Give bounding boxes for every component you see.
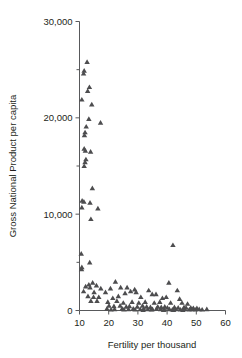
- data-point-marker: [88, 216, 93, 221]
- data-point-marker: [142, 299, 147, 304]
- data-point-marker: [86, 116, 91, 121]
- data-point-marker: [152, 300, 157, 305]
- data-point-marker: [84, 59, 89, 64]
- data-point-marker: [116, 293, 121, 298]
- data-point-marker: [124, 285, 129, 290]
- y-tick-label: 10,000: [43, 209, 72, 220]
- data-point-marker: [177, 296, 182, 301]
- tick-marks: [76, 22, 226, 315]
- data-point-marker: [89, 102, 94, 107]
- tick-labels: 102030405060010,00020,00030,000: [43, 16, 230, 328]
- data-point-marker: [175, 288, 180, 293]
- data-point-marker: [127, 304, 132, 309]
- data-point-marker: [114, 298, 119, 303]
- data-point-marker: [129, 299, 134, 304]
- data-points: [79, 59, 210, 312]
- data-point-marker: [91, 294, 96, 299]
- data-point-marker: [98, 120, 103, 125]
- data-point-marker: [98, 286, 103, 291]
- data-point-marker: [90, 280, 95, 285]
- x-tick-label: 20: [103, 317, 114, 328]
- data-point-marker: [138, 294, 143, 299]
- y-tick-label: 0: [67, 305, 72, 316]
- data-point-marker: [146, 288, 151, 293]
- data-point-marker: [81, 289, 86, 294]
- data-point-marker: [136, 300, 141, 305]
- y-tick-label: 30,000: [43, 16, 72, 27]
- y-axis-title: Gross National Product per capita: [7, 94, 18, 237]
- data-point-marker: [87, 260, 92, 265]
- data-point-marker: [83, 124, 88, 129]
- data-point-marker: [95, 206, 100, 211]
- data-point-marker: [110, 295, 115, 300]
- scatter-plot-figure: 102030405060010,00020,00030,000 Fertilit…: [0, 0, 242, 358]
- data-point-marker: [168, 300, 173, 305]
- data-point-marker: [96, 294, 101, 299]
- data-point-marker: [91, 290, 96, 295]
- x-tick-label: 40: [162, 317, 173, 328]
- data-point-marker: [88, 149, 93, 154]
- data-point-marker: [163, 294, 168, 299]
- data-point-marker: [121, 300, 126, 305]
- y-tick-label: 20,000: [43, 112, 72, 123]
- data-point-marker: [87, 200, 92, 205]
- axes: [80, 22, 226, 311]
- data-point-marker: [87, 84, 92, 89]
- data-point-marker: [113, 279, 118, 284]
- x-tick-label: 60: [220, 317, 231, 328]
- data-point-marker: [105, 299, 110, 304]
- data-point-marker: [153, 292, 158, 297]
- data-point-marker: [83, 157, 88, 162]
- data-point-marker: [108, 286, 113, 291]
- data-point-marker: [90, 186, 95, 191]
- x-tick-label: 50: [191, 317, 202, 328]
- data-point-marker: [185, 301, 190, 306]
- data-point-marker: [103, 290, 108, 295]
- data-point-marker: [170, 242, 175, 247]
- chart-canvas: 102030405060010,00020,00030,000 Fertilit…: [0, 0, 242, 358]
- data-point-marker: [204, 306, 209, 311]
- x-axis-title: Fertility per thousand: [108, 339, 197, 350]
- data-point-marker: [122, 291, 127, 296]
- data-point-marker: [118, 285, 123, 290]
- x-tick-label: 30: [133, 317, 144, 328]
- data-point-marker: [85, 293, 90, 298]
- x-tick-label: 10: [74, 317, 85, 328]
- data-point-marker: [166, 280, 171, 285]
